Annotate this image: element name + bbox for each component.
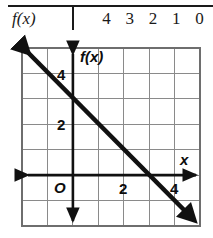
table-top-rule (8, 5, 213, 7)
table-cell: 0 (191, 8, 208, 30)
y-axis-label: f(x) (80, 48, 103, 65)
origin-label: O (54, 179, 66, 196)
y-tick-label-2: 2 (57, 116, 65, 133)
table-cell: 2 (145, 8, 162, 30)
coordinate-graph: f(x) x O 4 2 2 4 (0, 34, 213, 238)
y-tick-label-4: 4 (57, 66, 66, 83)
table-row-label: f(x) (12, 8, 36, 30)
x-tick-label-4: 4 (170, 180, 179, 197)
table-value-row: 4 3 2 1 0 (98, 8, 208, 30)
table-column-divider (72, 6, 74, 30)
table-cell: 4 (98, 8, 115, 30)
table-cell: 1 (168, 8, 185, 30)
graph-canvas: f(x) x O 4 2 2 4 (0, 34, 213, 238)
x-tick-label-2: 2 (119, 180, 127, 197)
function-value-table: f(x) 4 3 2 1 0 (0, 0, 213, 34)
table-cell: 3 (121, 8, 138, 30)
x-axis-label: x (179, 151, 189, 168)
